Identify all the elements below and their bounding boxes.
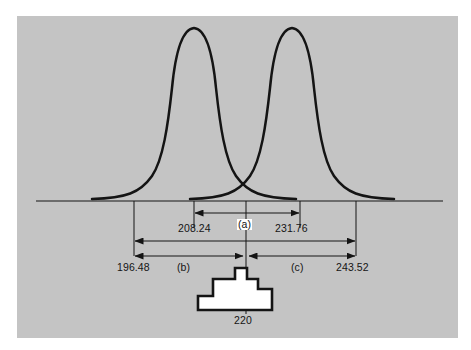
center-value-label: 220 (234, 314, 252, 326)
inner-left-label: 208.24 (178, 222, 211, 234)
center-marker-label: (a) (237, 219, 252, 230)
inner-right-label: 231.76 (275, 222, 308, 234)
left-distribution-curve (92, 28, 296, 199)
figure-drawing (0, 0, 471, 350)
stepped-histogram-icon (198, 268, 272, 310)
segment-left-label: (b) (177, 261, 190, 273)
segment-right-label: (c) (291, 261, 304, 273)
figure-root: (a) 208.24 231.76 196.48 243.52 (b) (c) … (0, 0, 471, 350)
right-distribution-curve (190, 28, 394, 199)
outer-left-label: 196.48 (117, 261, 150, 273)
outer-right-label: 243.52 (336, 261, 369, 273)
dimension-tick-lines (134, 201, 356, 272)
